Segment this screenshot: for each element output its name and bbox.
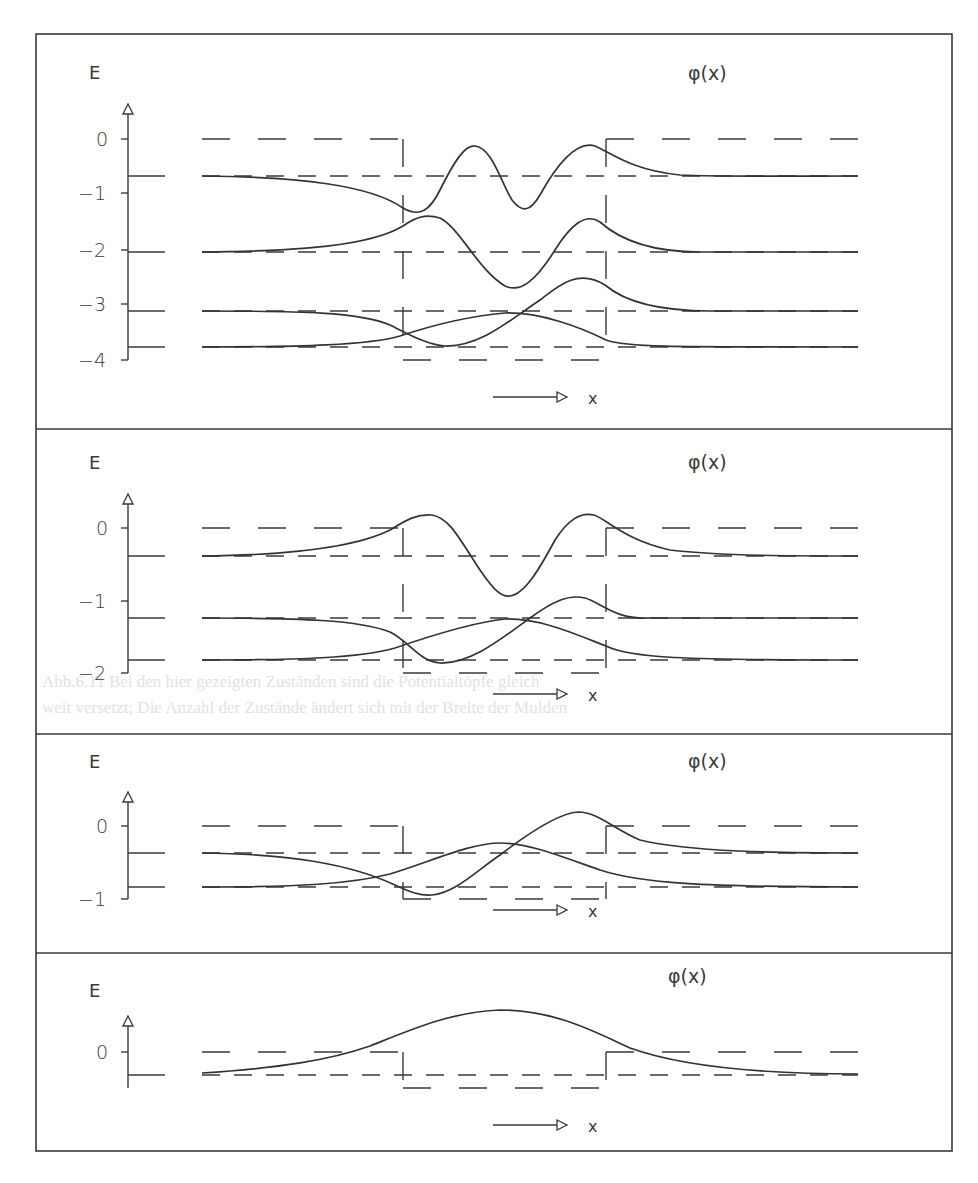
panel-4-one-state: E φ(x) 0 x bbox=[89, 965, 858, 1136]
svg-text:x: x bbox=[588, 1117, 597, 1136]
svg-text:−2: −2 bbox=[78, 239, 106, 261]
x-axis-arrow: x bbox=[493, 1117, 597, 1136]
potential-well bbox=[202, 528, 858, 673]
energy-levels bbox=[202, 853, 858, 887]
svg-text:−3: −3 bbox=[78, 293, 106, 315]
energy-axis bbox=[121, 104, 165, 360]
wavefunction-label: φ(x) bbox=[688, 451, 727, 473]
energy-axis-label: E bbox=[89, 452, 100, 473]
wavefunction-n2 bbox=[202, 597, 858, 663]
energy-axis-label: E bbox=[89, 980, 100, 1001]
wavefunction-n1 bbox=[202, 619, 858, 660]
energy-axis bbox=[121, 792, 165, 899]
panel-1-four-states: E φ(x) 0 −1 −2 −3 −4 bbox=[78, 62, 858, 408]
energy-axis bbox=[121, 1016, 165, 1088]
potential-well bbox=[202, 139, 858, 360]
svg-text:x: x bbox=[588, 389, 597, 408]
wavefunction-n1 bbox=[202, 843, 858, 887]
energy-tick-labels: 0 −1 −2 −3 −4 bbox=[78, 128, 108, 371]
svg-text:−1: −1 bbox=[78, 590, 106, 612]
energy-tick-labels: 0 bbox=[96, 1041, 108, 1063]
wavefunction-n3 bbox=[202, 514, 858, 596]
figure-frame bbox=[36, 34, 952, 1151]
wavefunction-label: φ(x) bbox=[688, 750, 727, 772]
panel-2-three-states: E φ(x) 0 −1 −2 bbox=[78, 451, 858, 705]
svg-text:x: x bbox=[588, 686, 597, 705]
svg-text:0: 0 bbox=[96, 128, 108, 150]
svg-text:0: 0 bbox=[96, 1041, 108, 1063]
wavefunction-label: φ(x) bbox=[688, 62, 727, 84]
energy-axis bbox=[121, 494, 165, 673]
svg-text:−1: −1 bbox=[78, 182, 106, 204]
x-axis-arrow: x bbox=[493, 902, 597, 921]
wavefunction-n1 bbox=[202, 313, 858, 347]
energy-tick-labels: 0 −1 bbox=[78, 815, 108, 910]
svg-text:−2: −2 bbox=[78, 662, 106, 684]
wavefunction-n1 bbox=[202, 1010, 858, 1074]
svg-text:x: x bbox=[588, 902, 597, 921]
svg-text:Abb.6.11 Bei den hier gezeigt: Abb.6.11 Bei den hier gezeigten Zustände… bbox=[42, 672, 540, 691]
energy-tick-labels: 0 −1 −2 bbox=[78, 517, 108, 684]
x-axis-arrow: x bbox=[493, 389, 597, 408]
svg-text:weit versetzt; Die Anzahl der: weit versetzt; Die Anzahl der Zustände ä… bbox=[42, 698, 567, 717]
bound-states-figure: Abb.6.11 Bei den hier gezeigten Zustände… bbox=[0, 0, 978, 1183]
potential-well bbox=[202, 826, 858, 899]
panel-3-two-states: E φ(x) 0 −1 x bbox=[78, 750, 858, 921]
svg-text:−4: −4 bbox=[78, 349, 106, 371]
energy-axis-label: E bbox=[89, 62, 100, 83]
svg-text:0: 0 bbox=[96, 517, 108, 539]
svg-text:−1: −1 bbox=[78, 888, 106, 910]
wavefunctions bbox=[202, 1010, 858, 1074]
wavefunction-n4 bbox=[202, 145, 858, 212]
wavefunction-label: φ(x) bbox=[668, 965, 707, 987]
energy-levels bbox=[202, 556, 858, 660]
energy-levels bbox=[202, 176, 858, 347]
energy-axis-label: E bbox=[89, 751, 100, 772]
svg-text:0: 0 bbox=[96, 815, 108, 837]
wavefunctions bbox=[202, 514, 858, 663]
bleed-through-text: Abb.6.11 Bei den hier gezeigten Zustände… bbox=[42, 672, 567, 717]
wavefunction-n2 bbox=[202, 278, 858, 346]
